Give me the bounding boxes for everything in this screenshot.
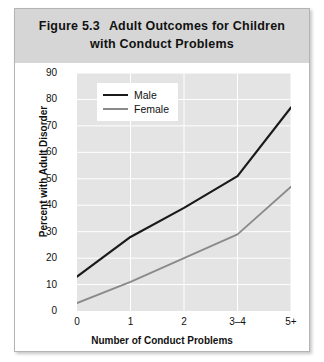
y-tick-label: 90 [17, 68, 57, 78]
y-tick-label: 50 [17, 174, 57, 184]
legend-label-male: Male [134, 89, 157, 101]
y-tick-label: 0 [17, 306, 57, 316]
legend-swatch-female [103, 108, 128, 110]
x-tick-label: 1 [109, 316, 153, 327]
chart-region: Percent with Adult Disorder 010203040506… [15, 63, 309, 353]
x-tick-label: 3–4 [216, 316, 260, 327]
figure-title-line-1: Figure 5.3Adult Outcomes for Children [15, 19, 309, 33]
y-tick-label: 30 [17, 227, 57, 237]
y-tick-label: 60 [17, 147, 57, 157]
figure-title-bar: Figure 5.3Adult Outcomes for Children wi… [15, 9, 309, 63]
legend-label-female: Female [134, 103, 169, 115]
x-tick-label: 0 [55, 316, 99, 327]
legend-item-female: Female [103, 102, 169, 116]
legend-swatch-male [103, 94, 128, 96]
figure-title-text-1: Adult Outcomes for Children [109, 19, 285, 33]
figure-number-label: Figure 5.3 [39, 19, 100, 33]
x-axis-title: Number of Conduct Problems [15, 335, 309, 346]
chart-legend: MaleFemale [97, 83, 178, 121]
y-tick-label: 20 [17, 253, 57, 263]
x-tick-label: 5+ [269, 316, 313, 327]
y-tick-label: 70 [17, 121, 57, 131]
x-tick-label: 2 [162, 316, 206, 327]
y-tick-label: 80 [17, 94, 57, 104]
legend-item-male: Male [103, 88, 169, 102]
plot-area: MaleFemale [77, 73, 291, 311]
figure-title-line-2: with Conduct Problems [15, 37, 309, 51]
y-tick-label: 10 [17, 280, 57, 290]
y-tick-label: 40 [17, 200, 57, 210]
figure-frame: Figure 5.3Adult Outcomes for Children wi… [14, 8, 310, 352]
